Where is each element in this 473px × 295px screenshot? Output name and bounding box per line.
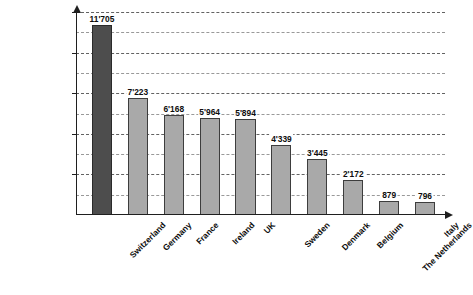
bar[interactable]: 5'894 <box>235 119 255 215</box>
bar-value-label: 5'964 <box>198 107 222 117</box>
x-axis-category-label: Switzerland <box>128 220 168 260</box>
bar[interactable]: 2'172 <box>343 180 363 215</box>
bar[interactable]: 6'168 <box>164 115 184 215</box>
bar-value-label: 2'172 <box>341 169 365 179</box>
bar-value-label: 796 <box>417 191 434 201</box>
bar[interactable]: 5'964 <box>200 118 220 215</box>
bar-value-label: 7'223 <box>126 87 150 97</box>
bar[interactable]: 4'339 <box>271 145 291 215</box>
bar-value-label: 4'339 <box>270 134 294 144</box>
bars-layer: 11'7057'2236'1685'9645'8944'3393'4452'17… <box>76 12 445 215</box>
bar-value-label: 3'445 <box>306 148 330 158</box>
bar[interactable]: 11'705 <box>92 25 112 215</box>
bar-chart: (in CHF millions) 2'5005'0007'50010'0001… <box>0 0 473 295</box>
x-axis-line <box>76 214 445 215</box>
x-axis-category-labels: SwitzerlandGermanyFranceIrelandUKSwedenD… <box>76 218 445 295</box>
x-axis-category-label: Denmark <box>340 220 372 252</box>
bar-value-label: 5'894 <box>234 108 258 118</box>
x-axis-category-label: Ireland <box>230 220 256 246</box>
x-axis-category-label: Belgium <box>375 220 405 250</box>
plot-area: 11'7057'2236'1685'9645'8944'3393'4452'17… <box>76 12 445 215</box>
bar-value-label: 879 <box>381 190 398 200</box>
x-axis-category-label: France <box>194 220 220 246</box>
x-axis-category-label: UK <box>261 220 277 236</box>
y-axis-arrow-icon <box>73 5 81 13</box>
bar[interactable]: 879 <box>379 201 399 215</box>
x-axis-category-label: Sweden <box>303 220 332 249</box>
x-axis-arrow-icon <box>445 211 453 219</box>
bar-value-label: 11'705 <box>88 14 116 24</box>
bar[interactable]: 3'445 <box>307 159 327 215</box>
bar[interactable]: 7'223 <box>128 98 148 215</box>
bar-value-label: 6'168 <box>162 104 186 114</box>
y-axis-line <box>76 12 77 215</box>
